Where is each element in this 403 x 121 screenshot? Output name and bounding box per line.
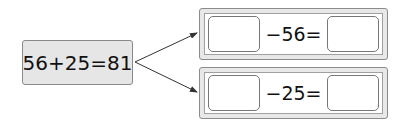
answer-blank-right-1[interactable]: [327, 16, 379, 52]
equation-row-2: −25=: [199, 67, 388, 119]
answer-blank-left-2[interactable]: [208, 75, 260, 111]
answer-blank-left-1[interactable]: [208, 16, 260, 52]
operator-text-1: −56=: [260, 23, 327, 45]
source-equation: 56+25=81: [23, 51, 133, 75]
answer-blank-right-2[interactable]: [327, 75, 379, 111]
operator-text-2: −25=: [260, 82, 327, 104]
source-equation-box: 56+25=81: [22, 40, 133, 85]
equation-row-1: −56=: [199, 8, 388, 60]
